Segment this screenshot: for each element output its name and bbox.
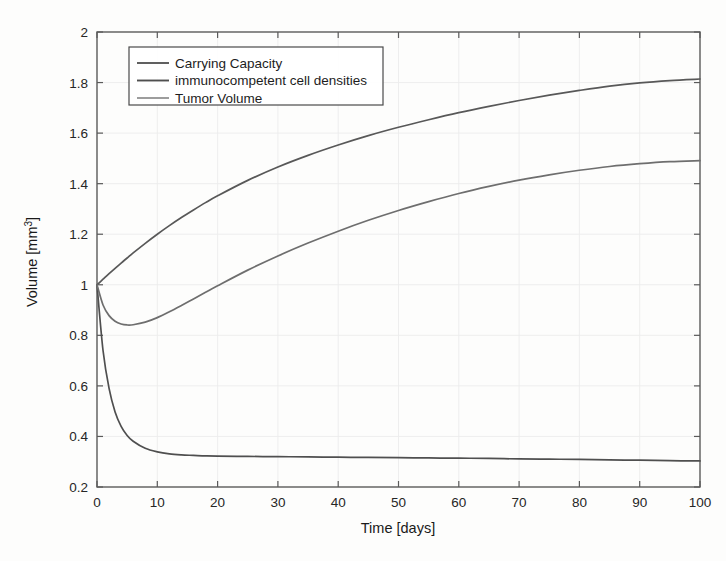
y-tick-label: 0.4 [69,429,88,444]
y-tick-label: 1.4 [69,177,88,192]
y-axis-title: Volume [mm3] [23,217,41,307]
y-tick-label: 0.6 [69,379,88,394]
x-tick-label: 50 [391,495,406,510]
chart-legend[interactable]: Carrying Capacityimmunocompetent cell de… [129,47,383,106]
x-tick-label: 80 [572,495,587,510]
y-tick-label: 2 [80,25,88,40]
y-tick-label: 1 [80,278,88,293]
x-axis-title: Time [days] [361,520,435,536]
y-tick-label: 1.2 [69,227,88,242]
x-tick-label: 60 [451,495,466,510]
x-tick-label: 70 [512,495,527,510]
x-tick-label: 20 [210,495,225,510]
x-tick-label: 100 [689,495,712,510]
x-tick-label: 0 [93,495,101,510]
y-tick-label: 0.2 [69,480,88,495]
legend-label[interactable]: immunocompetent cell densities [175,73,367,88]
svg-text:Volume [mm3]: Volume [mm3] [23,217,41,307]
x-tick-label: 40 [331,495,346,510]
legend-label[interactable]: Carrying Capacity [175,56,283,71]
y-tick-label: 1.6 [69,126,88,141]
legend-label[interactable]: Tumor Volume [175,91,262,106]
x-tick-label: 10 [150,495,165,510]
y-tick-label: 0.8 [69,328,88,343]
line-chart-canvas: 0102030405060708090100 0.20.40.60.811.21… [0,0,726,561]
chart-figure: 0102030405060708090100 0.20.40.60.811.21… [0,0,726,561]
y-tick-label: 1.8 [69,76,88,91]
x-tick-label: 30 [270,495,285,510]
x-tick-label: 90 [632,495,647,510]
